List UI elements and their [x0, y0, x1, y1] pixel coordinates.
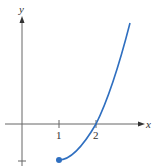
x-tick-label-1: 1: [56, 129, 62, 141]
start-point: [56, 157, 62, 163]
y-axis-arrow-icon: [20, 16, 25, 23]
graph: y x 1 2: [0, 0, 153, 167]
x-tick-label-2: 2: [93, 129, 99, 141]
y-axis-label: y: [18, 3, 24, 15]
x-axis-arrow-icon: [138, 122, 145, 127]
x-axis-label: x: [145, 118, 151, 130]
